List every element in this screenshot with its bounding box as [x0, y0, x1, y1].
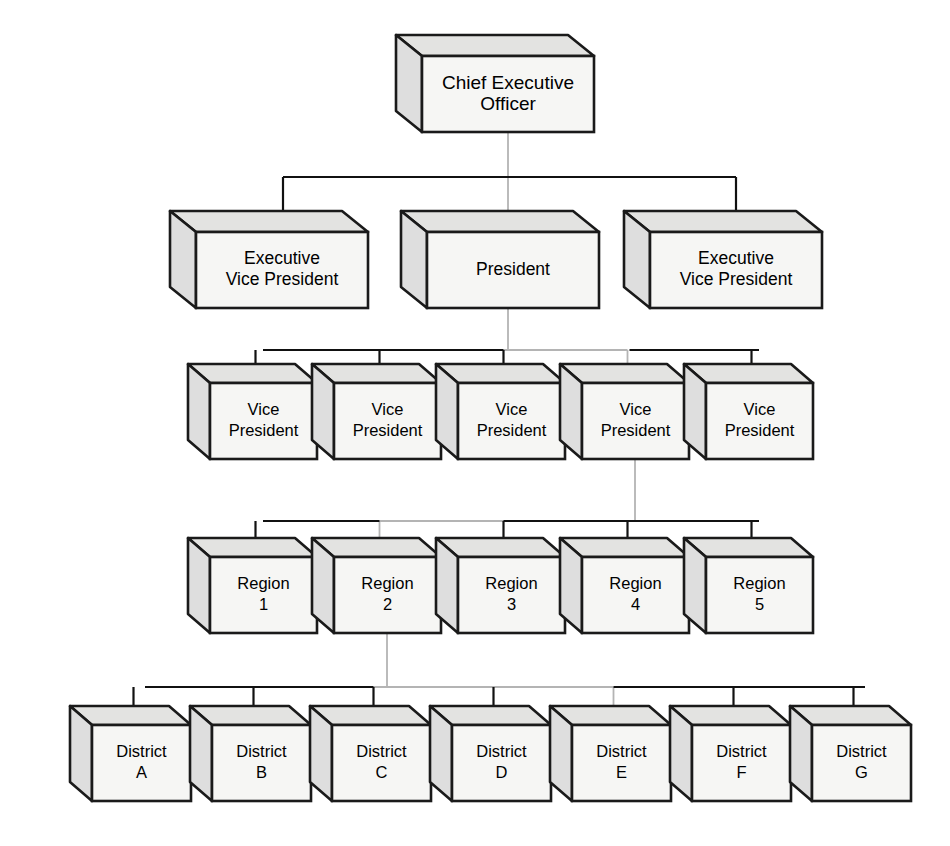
node-label-line: President	[476, 259, 550, 279]
node-label-line: B	[256, 763, 267, 781]
node-label-line: President	[725, 421, 795, 439]
org-node-president[interactable]: President	[401, 211, 599, 308]
node-label-line: A	[136, 763, 147, 781]
node-label-line: Vice	[372, 400, 404, 418]
node-label-line: D	[496, 763, 508, 781]
node-label-line: Vice President	[680, 269, 793, 289]
node-label-line: Region	[733, 574, 785, 592]
node-label-line: President	[601, 421, 671, 439]
org-node-vp-5[interactable]: VicePresident	[684, 364, 813, 459]
node-label-line: Region	[361, 574, 413, 592]
node-label-line: 4	[631, 595, 640, 613]
node-label-line: Region	[609, 574, 661, 592]
node-label-line: 3	[507, 595, 516, 613]
org-node-evp-left[interactable]: ExecutiveVice President	[170, 211, 368, 308]
node-label-line: F	[736, 763, 746, 781]
node-label-line: 2	[383, 595, 392, 613]
node-top-face	[396, 35, 594, 56]
node-label-line: 5	[755, 595, 764, 613]
org-node-vp-4[interactable]: VicePresident	[560, 364, 689, 459]
node-label-line: Region	[237, 574, 289, 592]
node-top-face	[170, 211, 368, 232]
node-label-line: Vice	[248, 400, 280, 418]
org-node-ceo[interactable]: Chief ExecutiveOfficer	[396, 35, 594, 132]
node-label-line: District	[596, 742, 647, 760]
org-node-vp-3[interactable]: VicePresident	[436, 364, 565, 459]
org-node-evp-right[interactable]: ExecutiveVice President	[624, 211, 822, 308]
node-label-line: Vice	[496, 400, 528, 418]
org-node-region-2[interactable]: Region2	[312, 538, 441, 633]
org-node-region-1[interactable]: Region1	[188, 538, 317, 633]
node-label-line: C	[376, 763, 388, 781]
node-label-line: District	[836, 742, 887, 760]
org-node-vp-1[interactable]: VicePresident	[188, 364, 317, 459]
org-node-vp-2[interactable]: VicePresident	[312, 364, 441, 459]
org-node-district-f[interactable]: DistrictF	[670, 706, 791, 801]
org-chart-canvas: Chief ExecutiveOfficerExecutiveVice Pres…	[0, 0, 950, 846]
node-label-line: Officer	[480, 93, 536, 114]
node-label-line: President	[477, 421, 547, 439]
org-node-district-b[interactable]: DistrictB	[190, 706, 311, 801]
org-node-region-5[interactable]: Region5	[684, 538, 813, 633]
node-label-line: Vice President	[226, 269, 339, 289]
node-label-line: District	[356, 742, 407, 760]
org-node-region-3[interactable]: Region3	[436, 538, 565, 633]
org-chart-root: Chief ExecutiveOfficerExecutiveVice Pres…	[0, 0, 950, 846]
node-label-line: E	[616, 763, 627, 781]
org-node-district-a[interactable]: DistrictA	[70, 706, 191, 801]
org-node-district-e[interactable]: DistrictE	[550, 706, 671, 801]
node-label-line: Chief Executive	[442, 72, 574, 93]
node-label-line: President	[229, 421, 299, 439]
node-label-line: G	[855, 763, 868, 781]
node-label-line: District	[716, 742, 767, 760]
org-node-region-4[interactable]: Region4	[560, 538, 689, 633]
node-label-line: District	[476, 742, 527, 760]
node-label-line: 1	[259, 595, 268, 613]
node-label-line: Vice	[620, 400, 652, 418]
org-node-district-g[interactable]: DistrictG	[790, 706, 911, 801]
node-top-face	[624, 211, 822, 232]
org-node-district-d[interactable]: DistrictD	[430, 706, 551, 801]
node-label-line: Vice	[744, 400, 776, 418]
node-label-line: District	[236, 742, 287, 760]
node-label-line: Region	[485, 574, 537, 592]
node-label-line: President	[353, 421, 423, 439]
org-node-district-c[interactable]: DistrictC	[310, 706, 431, 801]
node-top-face	[401, 211, 599, 232]
node-label-line: Executive	[698, 248, 774, 268]
node-label-line: Executive	[244, 248, 320, 268]
node-label-line: District	[116, 742, 167, 760]
